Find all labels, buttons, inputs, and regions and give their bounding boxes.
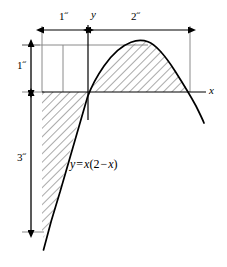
y-axis-label: y [91,9,96,20]
x-axis-label: x [209,85,214,96]
equation-minus: − [99,157,108,171]
curve-equation-label: y=x(2−x) [70,158,118,170]
graph-svg [0,0,227,267]
dimension-label-top-right: 2˝ [131,11,140,22]
dimension-label-top-left: 1˝ [59,11,68,22]
figure-canvas: 1˝ 2˝ 1˝ 3˝ y x y=x(2−x) [0,0,227,267]
equation-close-paren: ) [114,157,118,171]
dimension-label-left-lower: 3˝ [17,152,26,163]
dimension-label-left-upper: 1˝ [17,60,26,71]
equation-equals: = [75,157,84,171]
